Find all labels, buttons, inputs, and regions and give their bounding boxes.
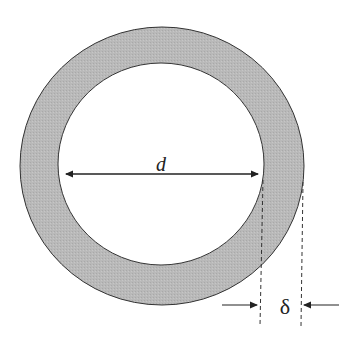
diameter-label: d [156,153,167,175]
thickness-label: δ [280,294,290,319]
extension-line-outer [301,182,303,326]
ring-diagram: d δ [0,0,360,337]
